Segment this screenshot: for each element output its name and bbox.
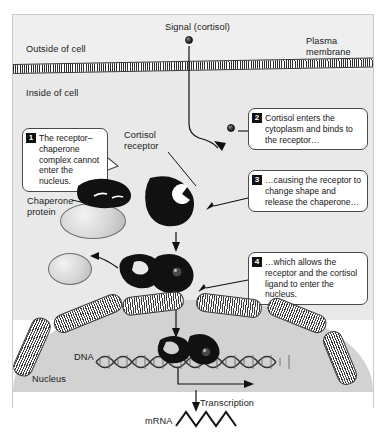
step-2-text: Cortisol enters the cytoplasm and binds … — [265, 113, 353, 145]
inside-of-cell-label: Inside of cell — [26, 88, 78, 99]
transcription-label: Transcription — [200, 398, 254, 409]
step-1-badge: 1 — [26, 133, 36, 143]
plasma-membrane-label: Plasma membrane — [306, 36, 351, 58]
step-2-badge: 2 — [252, 113, 262, 123]
chaperone-protein-released — [48, 253, 92, 285]
step-4-callout: 4 …which allows the receptor and the cor… — [248, 252, 368, 305]
nucleus-bottom-mask — [13, 392, 373, 408]
outside-of-cell-label: Outside of cell — [26, 44, 86, 55]
nucleus-label: Nucleus — [32, 374, 66, 385]
step-2-callout: 2 Cortisol enters the cytoplasm and bind… — [248, 108, 368, 150]
step-1-text: The receptor–chaperone complex cannot en… — [39, 133, 99, 186]
step-3-text: …causing the receptor to change shape an… — [265, 175, 361, 207]
cortisol-receptor-label: Cortisol receptor — [124, 130, 159, 152]
step-1-callout: 1 The receptor–chaperone complex cannot … — [22, 128, 108, 192]
cortisol-molecule-cytoplasm — [227, 124, 235, 132]
step-3-badge: 3 — [252, 175, 262, 185]
cortisol-molecule-extracellular — [185, 36, 193, 44]
chaperone-protein-bound — [60, 203, 126, 239]
mrna-label: mRNA — [145, 416, 172, 427]
step-3-callout: 3 …causing the receptor to change shape … — [248, 170, 368, 212]
signal-cortisol-label: Signal (cortisol) — [165, 22, 230, 33]
step-4-badge: 4 — [252, 257, 262, 267]
dna-label: DNA — [74, 352, 94, 363]
step-4-text: …which allows the receptor and the corti… — [265, 257, 357, 299]
diagram-canvas: Outside of cell Inside of cell Plasma me… — [0, 0, 386, 434]
